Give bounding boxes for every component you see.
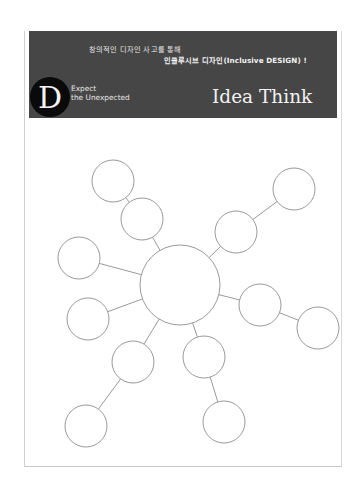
connector-line — [280, 313, 299, 321]
connector-line — [153, 237, 161, 250]
connector-line — [144, 319, 159, 344]
idea-node-circle — [215, 211, 257, 253]
idea-node-circle — [121, 198, 163, 240]
connector-line — [210, 377, 218, 402]
idea-node-circle — [203, 401, 245, 443]
connector-line — [98, 379, 120, 409]
central-idea-circle — [140, 245, 220, 325]
connector-line — [193, 323, 198, 337]
connector-line — [99, 263, 141, 274]
connector-line — [108, 299, 143, 312]
connector-line — [219, 295, 240, 300]
idea-node-circle — [92, 160, 134, 202]
idea-node-circle — [239, 284, 281, 326]
connector-line — [253, 202, 277, 220]
connector-line — [209, 246, 221, 257]
idea-node-circle — [297, 307, 339, 349]
idea-node-circle — [183, 336, 225, 378]
idea-node-circle — [65, 405, 107, 447]
idea-node-circle — [67, 298, 109, 340]
mind-map-diagram — [0, 0, 362, 491]
mind-map-nodes — [58, 160, 339, 447]
connector-line — [126, 198, 130, 203]
idea-node-circle — [273, 168, 315, 210]
idea-node-circle — [58, 237, 100, 279]
idea-node-circle — [112, 341, 154, 383]
